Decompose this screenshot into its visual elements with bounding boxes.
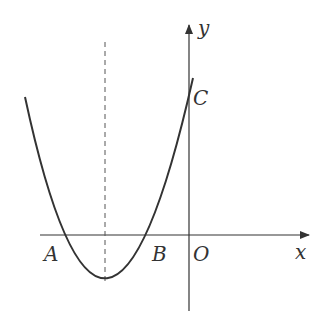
point-c-label: C: [193, 88, 208, 108]
y-axis-label: y: [198, 18, 209, 38]
parabola-diagram: y C A B O x: [0, 0, 329, 326]
point-b-label: B: [152, 244, 167, 264]
point-a-label: A: [44, 244, 58, 264]
diagram-canvas: [0, 0, 329, 326]
x-axis-label: x: [295, 242, 306, 262]
origin-label: O: [193, 244, 209, 264]
